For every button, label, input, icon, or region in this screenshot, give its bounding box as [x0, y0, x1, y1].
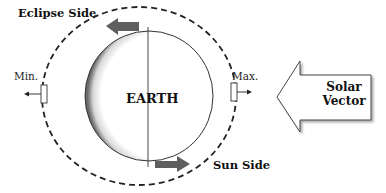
max-sensor-box [231, 83, 237, 101]
earth-label: EARTH [126, 92, 179, 105]
max-label: Max. [232, 71, 258, 82]
eclipse-side-label: Eclipse Side [18, 8, 96, 20]
min-arrowhead-icon [24, 92, 29, 97]
solar-vector-label-line1: Solar [318, 80, 370, 94]
solar-vector-label-line2: Vector [318, 94, 370, 108]
max-arrowhead-icon [247, 90, 252, 95]
min-sensor-box [41, 85, 47, 103]
solar-vector-label: Solar Vector [318, 80, 370, 108]
orbit-diagram: Eclipse Side Sun Side EARTH Min. Max. So… [0, 0, 386, 193]
sun-side-label: Sun Side [213, 160, 270, 172]
min-label: Min. [14, 71, 38, 82]
